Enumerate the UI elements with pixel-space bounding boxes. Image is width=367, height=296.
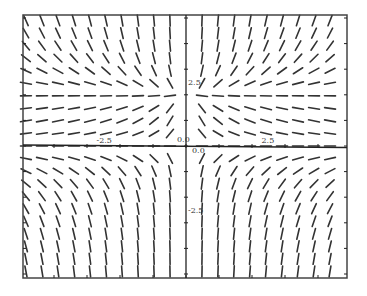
slope-segment xyxy=(39,28,44,38)
slope-segment xyxy=(104,191,108,201)
slope-segment xyxy=(53,168,63,174)
slope-segment xyxy=(101,119,112,122)
slope-segment xyxy=(280,191,285,201)
slope-segment xyxy=(309,82,320,84)
slope-segment xyxy=(261,157,271,161)
slope-segment xyxy=(37,68,47,73)
slope-segment xyxy=(120,179,125,189)
slope-segment xyxy=(133,118,143,123)
x-tick-label: 2.5 xyxy=(262,136,275,145)
slope-segment xyxy=(169,166,171,177)
slope-segment xyxy=(311,41,317,50)
slope-segment xyxy=(218,15,219,26)
slope-segment xyxy=(38,180,46,187)
slope-segment xyxy=(105,15,107,26)
slope-segment xyxy=(149,131,158,137)
slope-segment xyxy=(229,118,239,123)
slope-segment xyxy=(25,241,28,252)
slope-segment xyxy=(245,81,255,85)
slope-segment xyxy=(325,169,335,174)
slope-segment xyxy=(280,41,285,51)
slope-segment xyxy=(88,41,93,51)
slope-segment xyxy=(135,66,141,75)
slope-segment xyxy=(216,166,220,176)
slope-segment xyxy=(313,254,315,265)
slope-segment xyxy=(154,241,155,252)
slope-segment xyxy=(262,67,270,74)
slope-segment xyxy=(297,266,298,277)
slope-segment xyxy=(170,40,171,51)
slope-segment xyxy=(229,156,238,162)
slope-segment xyxy=(117,156,127,161)
slope-segment xyxy=(325,120,336,122)
slope-segment xyxy=(277,132,288,134)
slope-segment xyxy=(136,53,140,63)
slope-segment xyxy=(106,266,107,277)
slope-segment xyxy=(89,228,91,239)
slope-segment xyxy=(169,178,170,189)
slope-segment xyxy=(218,228,219,239)
slope-segment xyxy=(120,191,123,202)
slope-segment xyxy=(170,28,171,39)
slope-segment xyxy=(104,41,108,51)
x-origin-label: 0.0 xyxy=(192,146,205,155)
slope-segment xyxy=(38,55,46,62)
slope-segment xyxy=(54,54,62,62)
slope-field-svg: -2.50.02.52.50.0-2.5 xyxy=(0,0,367,296)
slope-segment xyxy=(122,253,123,264)
slope-segment xyxy=(325,68,335,73)
slope-segment xyxy=(249,241,250,252)
slope-segment xyxy=(23,204,29,214)
slope-segment xyxy=(281,15,284,26)
slope-segment xyxy=(87,179,94,188)
slope-segment xyxy=(55,41,61,50)
slope-segment xyxy=(56,204,61,214)
slope-segment xyxy=(70,180,77,188)
slope-segment xyxy=(296,204,300,214)
slope-segment xyxy=(202,28,203,39)
slope-segment xyxy=(293,68,302,74)
slope-segment xyxy=(265,28,268,39)
slope-segment xyxy=(137,191,140,202)
slope-segment xyxy=(199,104,206,113)
slope-segment xyxy=(329,241,332,252)
slope-segment xyxy=(217,178,220,189)
slope-segment xyxy=(213,96,224,97)
slope-segment xyxy=(297,241,299,252)
slope-segment xyxy=(117,119,127,123)
slope-segment xyxy=(309,157,320,160)
slope-segment xyxy=(217,191,219,202)
slope-segment xyxy=(137,15,138,26)
slope-segment xyxy=(217,28,218,39)
slope-segment xyxy=(250,266,251,277)
slope-segment xyxy=(88,28,92,38)
slope-segment xyxy=(165,95,176,96)
slope-segment xyxy=(89,253,91,264)
slope-segment xyxy=(54,180,62,188)
slope-segment xyxy=(72,28,76,38)
slope-segment xyxy=(53,108,64,110)
slope-segment xyxy=(154,15,155,26)
slope-segment xyxy=(297,229,300,240)
slope-segment xyxy=(229,96,240,97)
slope-segment xyxy=(149,96,160,97)
slope-segment xyxy=(23,28,29,37)
slope-segment xyxy=(69,157,80,160)
slope-segment xyxy=(153,28,154,39)
slope-segment xyxy=(53,68,63,73)
slope-segment xyxy=(87,54,94,63)
slope-segment xyxy=(153,191,155,202)
slope-segment xyxy=(118,67,125,75)
slope-segment xyxy=(133,81,143,87)
slope-segment xyxy=(117,107,128,110)
slope-segment xyxy=(121,216,123,227)
slope-segment xyxy=(152,66,157,76)
slope-segment xyxy=(69,120,80,122)
slope-segment xyxy=(310,54,318,62)
slope-segment xyxy=(277,107,288,109)
slope-segment xyxy=(295,180,302,188)
slope-segment xyxy=(309,168,319,174)
slope-segment xyxy=(245,119,255,123)
slope-segment xyxy=(57,266,59,277)
slope-segment xyxy=(88,191,93,201)
